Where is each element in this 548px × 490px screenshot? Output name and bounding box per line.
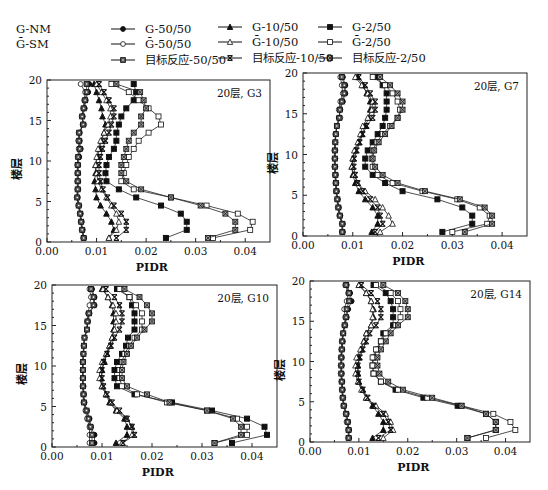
x-tick-label: 0.03 (445, 445, 468, 457)
x-tick-label: 0.02 (396, 445, 419, 457)
y-tick-label: 0 (298, 436, 305, 448)
panel-title: 20层, G14 (470, 288, 522, 300)
y-tick-label: 10 (292, 356, 305, 368)
y-tick-label: 15 (292, 315, 305, 327)
y-tick-label: 20 (292, 275, 305, 287)
x-axis-label: PIDR (397, 461, 430, 474)
y-axis-label: 楼层 (273, 359, 287, 381)
x-tick-label: 0.04 (494, 445, 518, 457)
x-tick-label: 0.01 (347, 445, 370, 457)
chart-panel-4: 0.000.010.020.030.0405101520PIDR楼层20层, G… (0, 0, 548, 490)
series-sg50 (338, 283, 350, 441)
series-g2 (370, 283, 498, 441)
y-tick-label: 5 (298, 396, 305, 408)
